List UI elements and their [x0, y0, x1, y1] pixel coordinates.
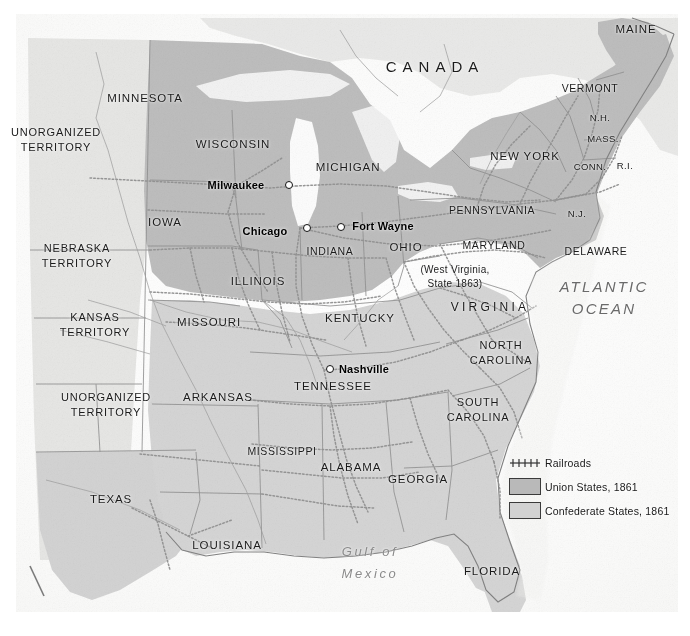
legend-label-union: Union States, 1861: [545, 481, 638, 493]
map-graphic: [0, 0, 690, 636]
confederate-swatch-icon: [505, 502, 545, 519]
confederate-color-swatch: [509, 502, 541, 519]
map-legend: Railroads Union States, 1861 Confederate…: [505, 452, 685, 524]
union-swatch-icon: [505, 478, 545, 495]
city-marker-nashville: [326, 365, 334, 373]
city-marker-fort-wayne: [337, 223, 345, 231]
city-marker-chicago: [303, 224, 311, 232]
legend-label-confederate: Confederate States, 1861: [545, 505, 669, 517]
map-container: CANADA ATLANTIC OCEAN Gulf of Mexico MIN…: [0, 0, 690, 636]
legend-item-railroads: Railroads: [505, 452, 685, 473]
railroad-hatch-icon: [505, 457, 545, 469]
union-color-swatch: [509, 478, 541, 495]
legend-label-railroads: Railroads: [545, 457, 591, 469]
city-marker-milwaukee: [285, 181, 293, 189]
legend-item-union: Union States, 1861: [505, 476, 685, 497]
paper-grain: [0, 0, 690, 636]
legend-item-confederate: Confederate States, 1861: [505, 500, 685, 521]
